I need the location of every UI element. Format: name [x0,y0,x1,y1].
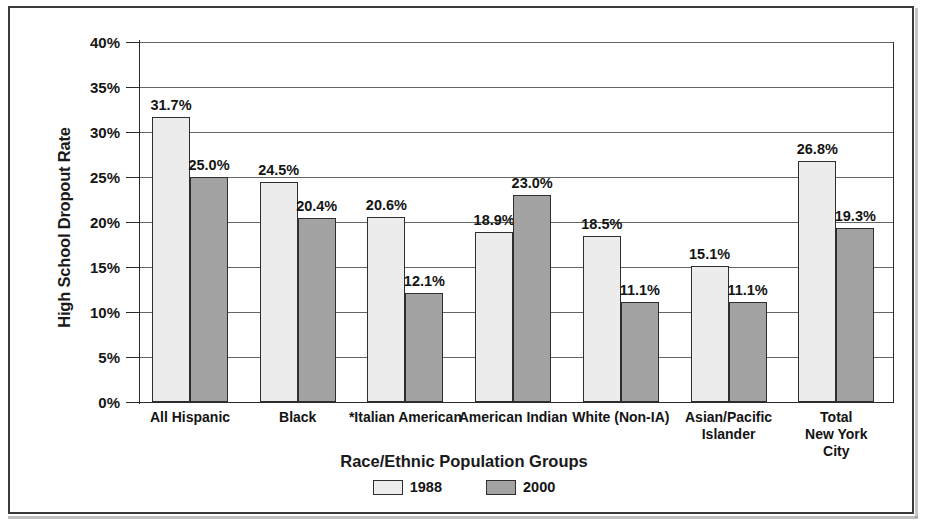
y-axis-tick [126,402,139,403]
bar-2000 [836,228,874,402]
legend-item-1988: 1988 [373,479,442,495]
x-axis-category-label: White (Non-IA) [572,409,669,426]
bar-value-label: 12.1% [404,273,445,289]
x-axis-category-label: American Indian [459,409,568,426]
bar-value-label: 24.5% [258,162,299,178]
x-axis-category-label: Total New York City [790,409,882,460]
y-axis-tick-label: 10% [60,304,120,321]
bar-value-label: 18.9% [474,212,515,228]
bar-2000 [513,195,551,402]
bar-value-label: 15.1% [689,246,730,262]
legend-swatch-2000 [486,480,516,495]
bar-value-label: 25.0% [188,157,229,173]
x-axis-category-label: *Italian American [349,409,462,426]
legend-item-2000: 2000 [486,479,555,495]
bar-2000 [621,302,659,402]
y-axis-tick-label: 15% [60,259,120,276]
legend-swatch-1988 [373,480,403,495]
x-axis-title: Race/Ethnic Population Groups [0,452,928,471]
bar-2000 [298,218,336,402]
y-axis-tick [126,312,139,313]
y-axis-tick-label: 20% [60,214,120,231]
bar-value-label: 19.3% [835,208,876,224]
y-axis-tick [126,267,139,268]
plot-right-border [893,42,894,403]
bar-1988 [691,266,729,402]
bar-value-label: 18.5% [581,216,622,232]
bar-1988 [798,161,836,402]
bar-value-label: 20.4% [296,198,337,214]
y-axis-tick-labels: 40%35%30%25%20%15%10%5%0% [56,0,120,528]
bar-value-label: 11.1% [727,282,767,298]
gridline [139,132,893,133]
y-axis-tick-label: 5% [60,349,120,366]
gridline [139,42,893,43]
y-axis-tick [126,222,139,223]
bar-value-label: 31.7% [150,97,191,113]
bar-value-label: 26.8% [797,141,838,157]
bar-1988 [260,182,298,403]
bar-2000 [729,302,767,402]
y-axis-tick [126,42,139,43]
y-axis-tick-label: 0% [60,394,120,411]
x-axis-category-label: Asian/Pacific Islander [685,409,772,443]
chart-legend: 1988 2000 [0,479,928,495]
y-axis-tick [126,132,139,133]
bar-1988 [475,232,513,402]
chart-figure: High School Dropout Rate 40%35%30%25%20%… [0,0,928,528]
bar-1988 [583,236,621,403]
y-axis-tick [126,177,139,178]
bar-1988 [367,217,405,402]
gridline [139,87,893,88]
bar-value-label: 11.1% [620,282,660,298]
x-axis-line [126,402,894,403]
legend-label-1988: 1988 [410,479,442,495]
bar-value-label: 20.6% [366,197,407,213]
x-axis-category-label: Black [279,409,316,426]
figure-border-shadow-right [915,8,918,518]
y-axis-tick [126,357,139,358]
bar-value-label: 23.0% [512,175,553,191]
x-axis-category-label: All Hispanic [150,409,230,426]
bar-1988 [152,117,190,402]
legend-label-2000: 2000 [523,479,555,495]
y-axis-tick-label: 35% [60,79,120,96]
y-axis-tick-label: 40% [60,34,120,51]
y-axis-line [139,40,140,404]
y-axis-tick-label: 30% [60,124,120,141]
y-axis-tick [126,87,139,88]
bar-2000 [190,177,228,402]
y-axis-tick-label: 25% [60,169,120,186]
bar-2000 [405,293,443,402]
figure-border-shadow-bottom [8,516,918,519]
